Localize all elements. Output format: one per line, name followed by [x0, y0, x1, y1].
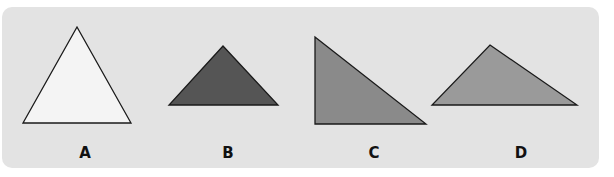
- label-b: B: [208, 144, 248, 162]
- triangle-c: [315, 37, 426, 124]
- label-a: A: [65, 144, 105, 162]
- label-d: D: [501, 144, 541, 162]
- triangle-b: [169, 46, 278, 105]
- triangle-d: [432, 45, 577, 105]
- label-c: C: [354, 144, 394, 162]
- triangle-a: [23, 27, 131, 123]
